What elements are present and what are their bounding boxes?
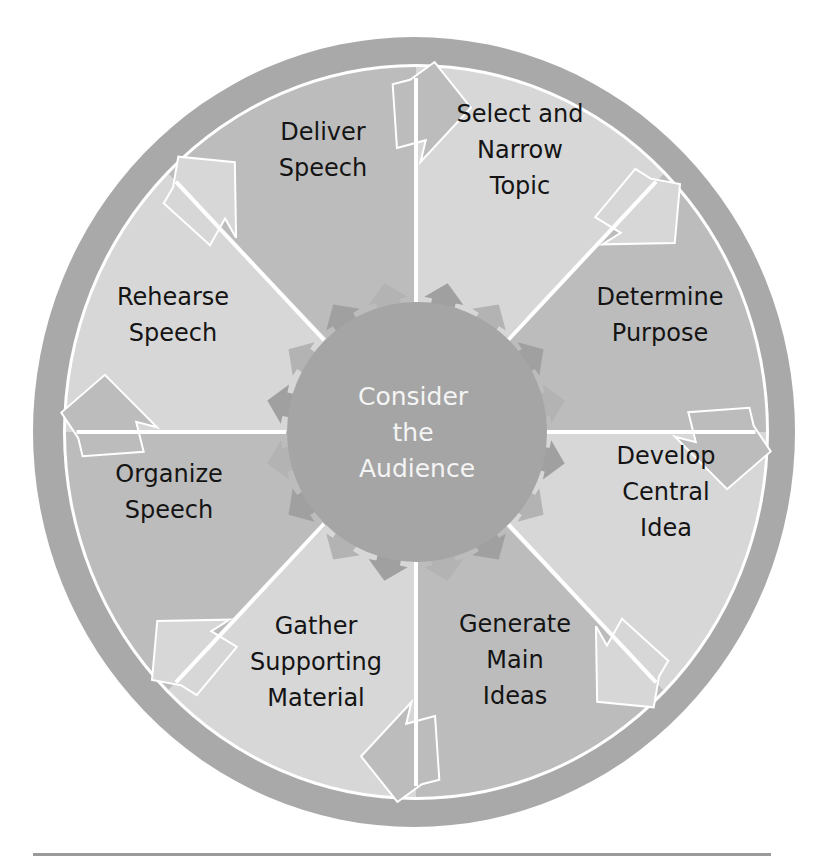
center-label-line-3: Audience [359, 454, 475, 483]
step-label-line: Topic [489, 172, 550, 200]
step-label-line: Narrow [477, 136, 563, 164]
step-label-line: Rehearse [117, 283, 229, 311]
step-label-line: Material [267, 684, 365, 712]
step-label-line: Organize [115, 460, 223, 488]
step-label-line: Speech [279, 154, 367, 182]
step-label-line: Speech [129, 319, 217, 347]
horizontal-rule [33, 853, 771, 856]
step-label-line: Determine [597, 283, 724, 311]
step-label-line: Generate [459, 610, 571, 638]
step-label-line: Gather [275, 612, 358, 640]
step-label-line: Develop [617, 442, 716, 470]
step-label-line: Supporting [250, 648, 382, 676]
step-label-line: Speech [125, 496, 213, 524]
center-label-line-1: Consider [358, 382, 469, 411]
step-label-line: Deliver [280, 118, 366, 146]
step-label-line: Main [486, 646, 543, 674]
center-label-line-2: the [393, 418, 434, 447]
step-label-line: Purpose [612, 319, 708, 347]
speech-process-diagram: Consider the Audience Select andNarrowTo… [0, 0, 815, 867]
step-label-line: Select and [457, 100, 584, 128]
step-label-line: Idea [640, 514, 692, 542]
step-label-line: Central [622, 478, 709, 506]
step-label-line: Ideas [483, 682, 547, 710]
